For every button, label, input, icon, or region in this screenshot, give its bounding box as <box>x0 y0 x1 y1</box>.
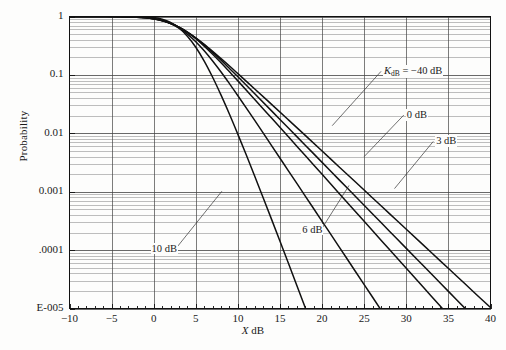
x-tick-label: −5 <box>92 312 132 324</box>
curve-k-db-40-db <box>70 17 491 308</box>
y-tick-label: 0.1 <box>12 67 64 79</box>
annotation-leader-line <box>395 141 434 188</box>
series-label-6-db: 6 dB <box>301 224 323 236</box>
series-label-k-db-40-db: KdB = −40 dB <box>383 65 443 78</box>
chart-figure: Probability 10.10.010.001.0001E-005 −10−… <box>0 0 506 350</box>
x-tick-label: 35 <box>428 312 468 324</box>
annotation-leader-line <box>364 115 404 156</box>
series-label-10-db: 10 dB <box>151 243 178 255</box>
k-symbol: KdB <box>384 65 400 76</box>
annotation-leader-line <box>176 191 222 249</box>
x-tick-label: 30 <box>386 312 426 324</box>
y-tick-label: .0001 <box>12 243 64 255</box>
x-tick-label: 0 <box>134 312 174 324</box>
series-label-3-db: 3 dB <box>435 135 457 147</box>
annotation-leader-line <box>321 185 349 229</box>
x-axis-title: X dB <box>0 324 506 336</box>
x-tick-label: 40 <box>471 312 506 324</box>
x-tick-label: 25 <box>344 312 384 324</box>
x-axis-title-symbol: X <box>242 324 249 336</box>
chart-canvas <box>0 0 506 350</box>
y-tick-label: 0.01 <box>12 126 64 138</box>
k-value: = −40 dB <box>400 65 442 76</box>
plot-area <box>0 0 506 350</box>
x-tick-label: 5 <box>176 312 216 324</box>
x-tick-label: −10 <box>50 312 90 324</box>
k-subscript: dB <box>391 69 400 78</box>
series-label-0-db: 0 dB <box>406 109 428 121</box>
y-tick-label: 1 <box>12 9 64 21</box>
x-axis-title-unit: dB <box>249 324 265 336</box>
x-tick-label: 15 <box>260 312 300 324</box>
y-tick-label: 0.001 <box>12 184 64 196</box>
curve-10-db <box>70 16 323 350</box>
x-tick-label: 20 <box>302 312 342 324</box>
x-tick-label: 10 <box>218 312 258 324</box>
